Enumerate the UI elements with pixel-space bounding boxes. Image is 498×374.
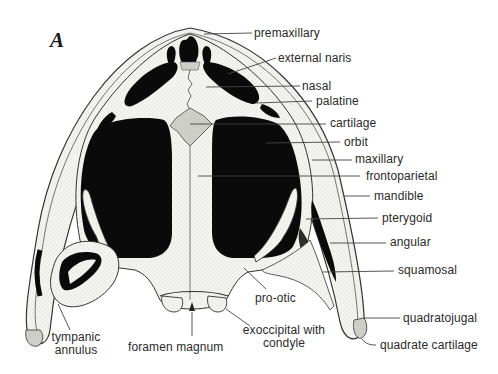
label-angular: angular: [390, 236, 431, 249]
label-tympanic-annulus: tympanic annulus: [46, 331, 106, 357]
label-pterygoid: pterygoid: [382, 212, 432, 225]
label-exoccipital-with-condyle: exoccipital with condyle: [236, 324, 332, 350]
label-quadratojugal: quadratojugal: [403, 312, 477, 325]
label-quadrate-cartilage: quadrate cartilage: [380, 339, 478, 352]
label-mandible: mandible: [374, 190, 424, 203]
label-tympanic-line2: annulus: [46, 344, 106, 357]
label-cartilage: cartilage: [330, 117, 376, 130]
label-maxillary: maxillary: [355, 153, 403, 166]
label-squamosal: squamosal: [398, 264, 457, 277]
label-palatine: palatine: [316, 95, 359, 108]
label-pro-otic: pro-otic: [255, 292, 296, 305]
label-external-naris: external naris: [278, 52, 351, 65]
label-orbit: orbit: [344, 136, 368, 149]
label-foramen-magnum: foramen magnum: [128, 341, 223, 354]
label-frontoparietal: frontoparietal: [366, 170, 437, 183]
label-nasal: nasal: [302, 80, 331, 93]
frog-skull-diagram: A premaxillary external naris nasal pala…: [0, 0, 498, 374]
panel-letter: A: [50, 28, 64, 53]
leader-tympanic-annulus: [58, 304, 70, 330]
leader-quadrate-cartilage: [362, 339, 376, 345]
label-exoccipital-line2: condyle: [236, 337, 332, 350]
label-premaxillary: premaxillary: [254, 27, 320, 40]
